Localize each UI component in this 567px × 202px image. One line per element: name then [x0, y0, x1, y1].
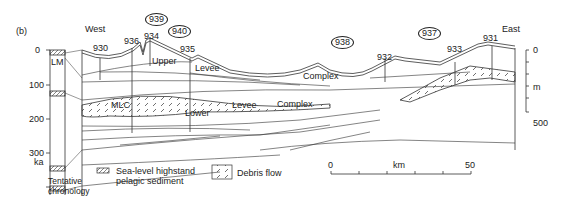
- legend-highstand-1: Sea-level highstand: [116, 166, 195, 176]
- circled-site-940: 940: [168, 25, 191, 38]
- circled-site-937: 937: [418, 27, 441, 40]
- legend-highstand-2: pelagic sediment: [116, 176, 184, 186]
- unit-lm: LM: [51, 57, 64, 67]
- unit-mlc: MLC: [111, 100, 130, 110]
- unit-levee-upper: Levee: [195, 63, 220, 73]
- distance-end: 50: [465, 160, 475, 170]
- distance-start: 0: [328, 160, 333, 170]
- debris-flow-swatch: [212, 165, 232, 179]
- chron-tick-0: 0: [35, 45, 40, 55]
- site-933: 933: [447, 44, 462, 54]
- highstand-swatch: [97, 168, 109, 173]
- chron-tick-200: 200: [29, 114, 44, 124]
- unit-levee-lower: Levee: [232, 100, 257, 110]
- west-label: West: [85, 24, 105, 34]
- distance-scale: [331, 171, 471, 174]
- depth-unit: m: [533, 82, 541, 92]
- east-label: East: [502, 24, 520, 34]
- depth-scale: [526, 50, 529, 112]
- unit-lower: Lower: [185, 108, 210, 118]
- unit-complex-upper: Complex: [303, 71, 339, 81]
- unit-upper: Upper: [152, 56, 177, 66]
- circled-site-938: 938: [331, 36, 354, 49]
- site-930: 930: [93, 43, 108, 53]
- site-932: 932: [377, 52, 392, 62]
- unit-complex-lower: Complex: [277, 99, 313, 109]
- site-934: 934: [144, 31, 159, 41]
- legend-debris-flow: Debris flow: [237, 168, 282, 178]
- site-935: 935: [180, 44, 195, 54]
- site-936: 936: [124, 36, 139, 46]
- depth-bottom: 500: [533, 118, 548, 128]
- chron-unit: ka: [34, 157, 44, 167]
- chron-caption-2: chronology: [48, 186, 90, 196]
- circled-site-939: 939: [145, 13, 168, 26]
- chron-caption-1: Tentative: [48, 176, 82, 186]
- distance-unit: km: [393, 160, 405, 170]
- chronology-column: [46, 50, 82, 195]
- site-931: 931: [483, 33, 498, 43]
- depth-top: 0: [533, 45, 538, 55]
- chron-tick-100: 100: [29, 80, 44, 90]
- panel-label: (b): [16, 26, 27, 36]
